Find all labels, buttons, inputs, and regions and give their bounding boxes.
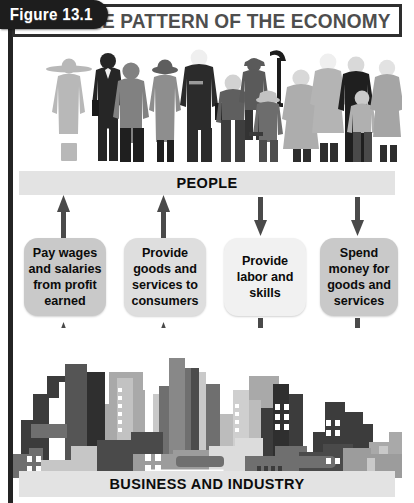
arrow-down-provide-labor (254, 197, 267, 236)
figure-container: THE PATTERN OF THE ECONOMY Figure 13.1 (0, 0, 414, 503)
diagram-canvas: PEOPLE (13, 40, 402, 501)
figure-number-label: Figure 13.1 (4, 0, 103, 29)
figure-number-tab: Figure 13.1 (0, 0, 108, 29)
arrow-up-provide-goods (157, 195, 170, 238)
people-label-bar: PEOPLE (19, 171, 395, 195)
arrow-down-spend-money (351, 197, 364, 236)
city-skyline-illustration (13, 328, 402, 478)
flow-box-pay-wages[interactable]: Pay wages and salaries from profit earne… (24, 238, 106, 316)
flow-box-provide-labor[interactable]: Provide labor and skills (224, 238, 306, 316)
business-label-bar: BUSINESS AND INDUSTRY (19, 471, 395, 497)
people-illustration (13, 40, 402, 168)
arrow-up-pay-wages (57, 195, 70, 238)
flow-box-provide-goods[interactable]: Provide goods and services to consumers (124, 238, 206, 316)
flow-box-spend-money[interactable]: Spend money for goods and services (320, 238, 398, 316)
